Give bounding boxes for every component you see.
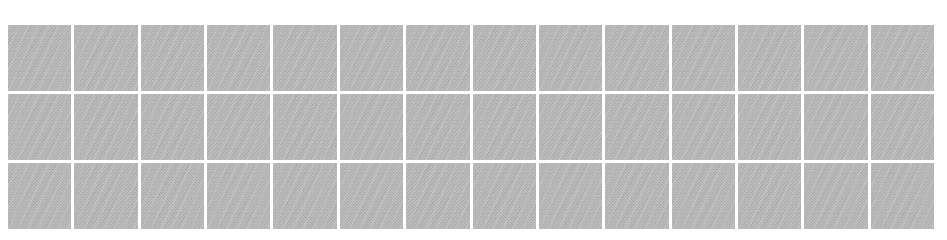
placeholder-tile[interactable]	[74, 163, 137, 229]
placeholder-tile[interactable]	[141, 163, 204, 229]
placeholder-tile[interactable]	[340, 163, 403, 229]
placeholder-tile[interactable]	[473, 163, 536, 229]
placeholder-tile[interactable]	[406, 25, 469, 91]
placeholder-tile[interactable]	[871, 25, 934, 91]
placeholder-tile[interactable]	[273, 25, 336, 91]
placeholder-tile[interactable]	[605, 25, 668, 91]
placeholder-tile[interactable]	[473, 25, 536, 91]
placeholder-tile[interactable]	[473, 94, 536, 160]
placeholder-tile[interactable]	[340, 25, 403, 91]
placeholder-tile[interactable]	[539, 25, 602, 91]
placeholder-tile[interactable]	[738, 25, 801, 91]
placeholder-tile[interactable]	[8, 94, 71, 160]
placeholder-tile[interactable]	[207, 94, 270, 160]
placeholder-tile[interactable]	[804, 163, 867, 229]
placeholder-tile[interactable]	[804, 94, 867, 160]
placeholder-tile[interactable]	[207, 25, 270, 91]
placeholder-tile[interactable]	[273, 163, 336, 229]
placeholder-tile[interactable]	[672, 25, 735, 91]
placeholder-tile-grid	[8, 25, 934, 229]
placeholder-tile[interactable]	[605, 94, 668, 160]
placeholder-tile[interactable]	[672, 163, 735, 229]
placeholder-tile[interactable]	[804, 25, 867, 91]
placeholder-tile[interactable]	[74, 94, 137, 160]
placeholder-tile[interactable]	[738, 94, 801, 160]
placeholder-tile[interactable]	[141, 94, 204, 160]
placeholder-tile[interactable]	[406, 94, 469, 160]
placeholder-tile[interactable]	[8, 163, 71, 229]
placeholder-tile[interactable]	[539, 163, 602, 229]
placeholder-tile[interactable]	[74, 25, 137, 91]
placeholder-tile[interactable]	[605, 163, 668, 229]
screen-canvas	[0, 0, 947, 240]
placeholder-tile[interactable]	[141, 25, 204, 91]
placeholder-tile[interactable]	[871, 163, 934, 229]
placeholder-tile[interactable]	[273, 94, 336, 160]
placeholder-tile[interactable]	[539, 94, 602, 160]
placeholder-tile[interactable]	[672, 94, 735, 160]
placeholder-tile[interactable]	[207, 163, 270, 229]
placeholder-tile[interactable]	[871, 94, 934, 160]
placeholder-tile[interactable]	[738, 163, 801, 229]
placeholder-tile[interactable]	[340, 94, 403, 160]
placeholder-tile[interactable]	[406, 163, 469, 229]
placeholder-tile[interactable]	[8, 25, 71, 91]
